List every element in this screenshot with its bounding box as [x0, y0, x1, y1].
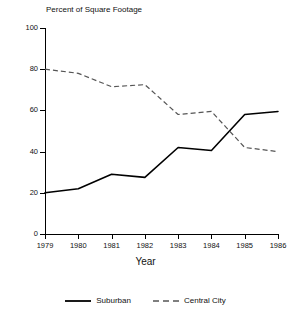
x-tick-mark	[245, 235, 246, 239]
series-line-central-city	[45, 69, 278, 151]
series-line-suburban	[45, 111, 278, 192]
y-tick-label: 0	[16, 230, 38, 238]
y-axis-line	[45, 28, 46, 235]
y-tick-label: 20	[16, 189, 38, 197]
x-tick-mark	[211, 235, 212, 239]
solid-line-swatch	[65, 297, 91, 305]
x-tick-mark	[78, 235, 79, 239]
y-tick-mark	[40, 193, 45, 194]
legend-label-suburban: Suburban	[96, 296, 131, 305]
series-plot-layer	[0, 0, 291, 320]
dashed-line-swatch	[153, 297, 179, 305]
y-tick-mark	[40, 69, 45, 70]
y-tick-label: 40	[16, 148, 38, 156]
y-tick-label: 60	[16, 106, 38, 114]
x-tick-mark	[45, 235, 46, 239]
y-tick-label: 80	[16, 65, 38, 73]
chart-legend: Suburban Central City	[0, 296, 291, 305]
legend-label-central-city: Central City	[184, 296, 226, 305]
x-tick-mark	[278, 235, 279, 239]
y-tick-mark	[40, 28, 45, 29]
y-tick-mark	[40, 110, 45, 111]
x-tick-mark	[112, 235, 113, 239]
line-chart-figure: Percent of Square Footage 020406080100 1…	[0, 0, 291, 320]
x-tick-mark	[178, 235, 179, 239]
x-axis-title: Year	[0, 256, 291, 268]
legend-entry-central-city: Central City	[153, 296, 226, 305]
x-tick-label: 1986	[258, 242, 291, 250]
y-tick-label: 100	[16, 24, 38, 32]
x-tick-mark	[145, 235, 146, 239]
chart-title: Percent of Square Footage	[46, 5, 142, 15]
y-tick-mark	[40, 152, 45, 153]
legend-entry-suburban: Suburban	[65, 296, 131, 305]
